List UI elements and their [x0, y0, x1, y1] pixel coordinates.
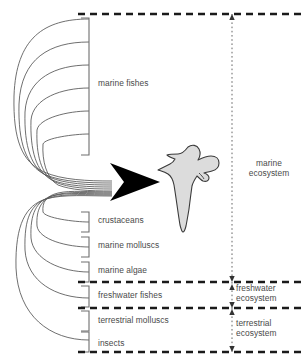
label-terrestrial-molluscs: terrestrial molluscs [98, 315, 169, 325]
label-marine-algae: marine algae [98, 265, 147, 275]
label-crustaceans: crustaceans [98, 215, 144, 225]
label-insects: insects [98, 338, 124, 348]
label-terrestrial-ecosystem: terrestrial ecosystem [236, 318, 302, 338]
label-marine-molluscs: marine molluscs [98, 240, 159, 250]
label-marine-fishes: marine fishes [98, 78, 148, 88]
label-terrestrial-ecosystem-line2: ecosystem [236, 328, 302, 338]
diagram-canvas [0, 0, 306, 363]
flow-curves-upper [14, 19, 112, 191]
label-freshwater-fishes: freshwater fishes [98, 290, 162, 300]
label-freshwater-ecosystem-line2: ecosystem [236, 293, 302, 303]
label-marine-ecosystem-line2: ecosystem [236, 168, 302, 178]
label-marine-ecosystem: marine ecosystem [236, 158, 302, 178]
label-freshwater-ecosystem: freshwater ecosystem [236, 283, 302, 303]
label-freshwater-ecosystem-line1: freshwater [236, 283, 302, 293]
bracket-freshwater-fishes [81, 286, 89, 307]
group-brackets [81, 18, 89, 352]
bracket-terrestrial-molluscs [81, 311, 89, 331]
ecosystem-span-indicators [229, 14, 234, 352]
convergence-arrow [110, 163, 160, 201]
bracket-insects [81, 332, 89, 352]
gull-silhouette [158, 145, 219, 232]
ecosystem-diagram: marine fishes crustaceans marine mollusc… [0, 0, 306, 363]
label-terrestrial-ecosystem-line1: terrestrial [236, 318, 302, 328]
label-marine-ecosystem-line1: marine [236, 158, 302, 168]
